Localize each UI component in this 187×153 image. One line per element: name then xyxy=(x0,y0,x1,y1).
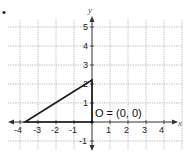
svg-text:-1: -1 xyxy=(79,136,87,146)
x-axis-left-arrow-icon xyxy=(8,120,14,125)
svg-text:2: 2 xyxy=(124,125,129,135)
svg-text:1: 1 xyxy=(83,98,88,108)
origin-annotation: O = (0, 0) xyxy=(95,107,142,119)
triangle xyxy=(25,80,92,122)
svg-text:1: 1 xyxy=(106,125,111,135)
svg-text:3: 3 xyxy=(142,125,147,135)
origin-point xyxy=(90,120,93,123)
svg-text:-2: -2 xyxy=(51,125,59,135)
svg-text:-3: -3 xyxy=(33,125,41,135)
y-axis-label: y xyxy=(87,5,92,15)
svg-text:5: 5 xyxy=(83,22,88,32)
y-axis-up-arrow-icon xyxy=(90,16,95,22)
svg-text:-1: -1 xyxy=(69,125,77,135)
svg-text:4: 4 xyxy=(83,41,88,51)
x-tick-labels: -4 -3 -2 -1 1 2 3 4 xyxy=(14,125,164,135)
svg-text:4: 4 xyxy=(159,125,164,135)
x-axis-label: x xyxy=(177,118,182,128)
y-axis-down-arrow-icon xyxy=(90,145,95,151)
bullet-marker: • xyxy=(2,6,6,18)
svg-text:-4: -4 xyxy=(14,125,22,135)
svg-text:3: 3 xyxy=(83,60,88,70)
coordinate-plane: • xyxy=(0,0,187,153)
